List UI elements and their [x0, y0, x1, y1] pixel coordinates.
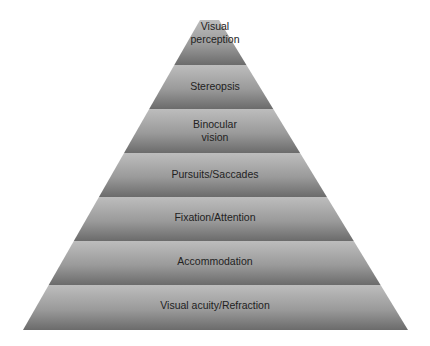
layer-label-accommodation: Accommodation: [0, 255, 430, 268]
layer-label-pursuits-saccades: Pursuits/Saccades: [0, 168, 430, 181]
label-line: Visual: [0, 20, 430, 33]
label-line: Accommodation: [0, 255, 430, 268]
label-line: vision: [0, 131, 430, 144]
layer-label-stereopsis: Stereopsis: [0, 80, 430, 93]
layer-label-visual-perception: Visual perception: [0, 20, 430, 46]
layer-label-fixation-attention: Fixation/Attention: [0, 211, 430, 224]
layer-label-visual-acuity-refraction: Visual acuity/Refraction: [0, 299, 430, 312]
label-line: Fixation/Attention: [0, 211, 430, 224]
label-line: Visual acuity/Refraction: [0, 299, 430, 312]
layer-label-binocular-vision: Binocular vision: [0, 118, 430, 144]
label-line: Stereopsis: [0, 80, 430, 93]
label-line: Pursuits/Saccades: [0, 168, 430, 181]
label-line: Binocular: [0, 118, 430, 131]
label-line: perception: [0, 33, 430, 46]
